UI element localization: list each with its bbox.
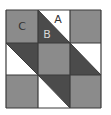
quilt-pattern-diagram: C A B bbox=[0, 0, 111, 115]
label-a: A bbox=[54, 13, 62, 26]
cell-r2-c0 bbox=[6, 75, 38, 108]
cell-r1-c1 bbox=[38, 43, 70, 75]
label-b: B bbox=[43, 28, 51, 41]
label-c: C bbox=[18, 20, 26, 33]
cell-r2-c2 bbox=[70, 75, 101, 108]
cell-r0-c2 bbox=[70, 10, 101, 43]
